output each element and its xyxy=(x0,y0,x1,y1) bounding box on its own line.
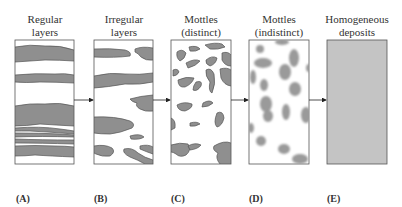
panel-c-label: (C) xyxy=(171,193,185,204)
panel-b-label: (B) xyxy=(94,193,107,204)
panel-b-irregular-layers xyxy=(94,40,153,164)
panel-e-homogeneous xyxy=(327,40,387,164)
panel-c-mottles-distinct xyxy=(171,40,231,164)
panel-d-mottles-indistinct xyxy=(248,39,312,164)
deposit-diagram xyxy=(0,0,402,207)
panel-e-label: (E) xyxy=(327,193,340,204)
panel-d-label: (D) xyxy=(249,193,263,204)
panel-a-label: (A) xyxy=(16,193,30,204)
panel-a-regular-layers xyxy=(15,40,74,164)
